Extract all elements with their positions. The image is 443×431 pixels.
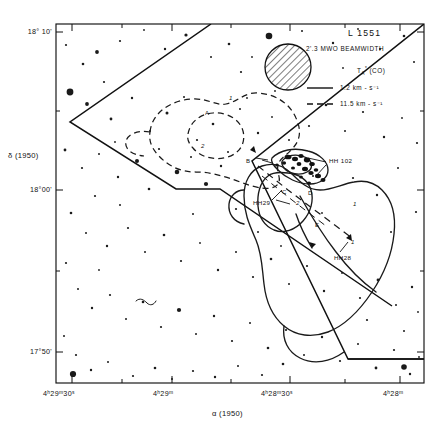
x-tick-label: 4ʰ29ᵐ30ˢ [43,389,75,398]
x-tick-label: 4ʰ28ᵐ30ˢ [261,389,293,398]
solid-contours-1-2 [136,149,395,362]
y-tick-label: 18°00' [10,185,52,194]
contour-level-label: 2 [201,143,205,149]
component-label-e: E [315,222,319,228]
contour-level-label: 1 [229,95,233,101]
object-label-hh29: HH29 [253,199,270,206]
beamwidth-label: 2'.3 MWO BEAMWIDTH [306,45,384,52]
y-axis-label: δ (1950) [8,151,39,160]
dashed-contours-11-5 [126,93,352,238]
component-label-c: C [282,189,287,195]
y-tick-label: 18° 10' [10,27,52,36]
legend-key-lines [307,88,333,104]
contour-level-label: 1 [353,201,357,207]
contour-level-label: 2 [296,200,300,206]
component-label-a: A [205,110,209,116]
antenna-temperature-label: TA* (CO) [357,66,385,76]
y-tick-label: 17°50' [10,347,52,356]
ta-subscript: A [361,71,364,76]
contour-level-label: 1 [351,239,355,245]
x-tick-label: 4ʰ28ᵐ [383,389,403,398]
object-label-hh102: HH 102 [329,157,352,164]
object-label-hh28: HH28 [334,254,351,261]
beam-size-circle [265,44,311,90]
figure-container: 18° 10' 18°00' 17°50' δ (1950) 4ʰ29ᵐ30ˢ … [0,0,443,431]
hh-knot-cluster [275,154,325,185]
ta-species: (CO) [369,67,385,74]
legend-entry-dashed: 11.5 km - s⁻¹ [340,100,383,108]
x-axis-label: α (1950) [212,409,243,418]
x-tick-label: 4ʰ29ᵐ [153,389,173,398]
component-label-b: B [246,158,250,164]
sky-map-plot [0,0,443,431]
legend-entry-solid: 1.2 km - s⁻¹ [340,84,379,92]
ta-superscript: * [365,66,367,71]
component-label-d: D [308,190,313,196]
source-name-label: L 1551 [348,28,381,38]
